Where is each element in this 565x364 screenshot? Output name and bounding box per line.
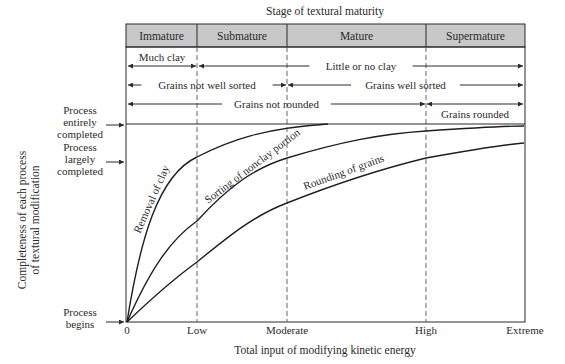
x-tick-0: 0 bbox=[124, 324, 130, 336]
y-level-2: Processbegins bbox=[63, 306, 124, 330]
curve-label-sorting: Sorting of nonclay portion bbox=[202, 126, 303, 206]
curve-removal-of-clay bbox=[127, 124, 328, 322]
svg-text:Process: Process bbox=[63, 141, 97, 153]
x-tick-extreme: Extreme bbox=[506, 324, 543, 336]
range-much-clay: Much clay bbox=[128, 51, 196, 66]
diagram-title: Stage of textural maturity bbox=[266, 5, 384, 18]
x-tick-low: Low bbox=[187, 324, 207, 336]
svg-text:Grains well sorted: Grains well sorted bbox=[365, 79, 446, 91]
y-axis-label: Completeness of each process of textural… bbox=[16, 150, 41, 289]
svg-text:completed: completed bbox=[57, 128, 103, 140]
range-grains-well-sorted: Grains well sorted bbox=[288, 79, 523, 91]
svg-text:Grains rounded: Grains rounded bbox=[441, 108, 510, 120]
range-grains-not-rounded: Grains not rounded bbox=[128, 98, 425, 110]
stage-label-submature: Submature bbox=[217, 30, 267, 42]
y-level-labels: ProcessentirelycompletedProcesslargelyco… bbox=[57, 104, 124, 330]
svg-text:Grains not rounded: Grains not rounded bbox=[234, 98, 319, 110]
svg-text:Grains not well sorted: Grains not well sorted bbox=[158, 79, 256, 91]
svg-text:of textural modification: of textural modification bbox=[29, 165, 41, 274]
y-level-1: Processlargelycompleted bbox=[57, 141, 124, 177]
svg-text:Much clay: Much clay bbox=[139, 51, 186, 63]
curve-label-removal-of-clay: Removal of clay bbox=[131, 163, 172, 235]
stage-label-mature: Mature bbox=[340, 30, 373, 42]
svg-text:Process: Process bbox=[63, 104, 97, 116]
textural-maturity-diagram: Stage of textural maturity ImmatureSubma… bbox=[0, 0, 565, 364]
range-annotations: Much clayLittle or no clayGrains not wel… bbox=[128, 51, 523, 120]
curve-sorting-of-nonclay-portion bbox=[127, 126, 524, 322]
svg-text:Completeness of each process: Completeness of each process bbox=[16, 150, 29, 289]
x-tick-high: High bbox=[415, 324, 438, 336]
curve-rounding-of-grains bbox=[127, 143, 524, 322]
range-grains-rounded: Grains rounded bbox=[427, 104, 523, 120]
stage-label-immature: Immature bbox=[139, 30, 184, 42]
svg-text:entirely: entirely bbox=[63, 116, 97, 128]
svg-text:completed: completed bbox=[57, 165, 103, 177]
svg-text:begins: begins bbox=[66, 318, 95, 330]
y-level-0: Processentirelycompleted bbox=[57, 104, 124, 140]
stage-label-supermature: Supermature bbox=[446, 30, 505, 43]
curve-label-rounding: Rounding of grains bbox=[302, 152, 386, 192]
x-tick-moderate: Moderate bbox=[266, 324, 308, 336]
x-axis-ticks: 0LowModerateHighExtreme bbox=[124, 324, 543, 336]
svg-text:Process: Process bbox=[63, 306, 97, 318]
svg-text:Little or no clay: Little or no clay bbox=[326, 60, 397, 72]
range-little-or-no-clay: Little or no clay bbox=[199, 60, 523, 72]
range-grains-not-well-sorted: Grains not well sorted bbox=[128, 79, 286, 91]
process-curves bbox=[127, 124, 524, 322]
svg-text:largely: largely bbox=[65, 153, 96, 165]
x-axis-label: Total input of modifying kinetic energy bbox=[234, 344, 416, 357]
